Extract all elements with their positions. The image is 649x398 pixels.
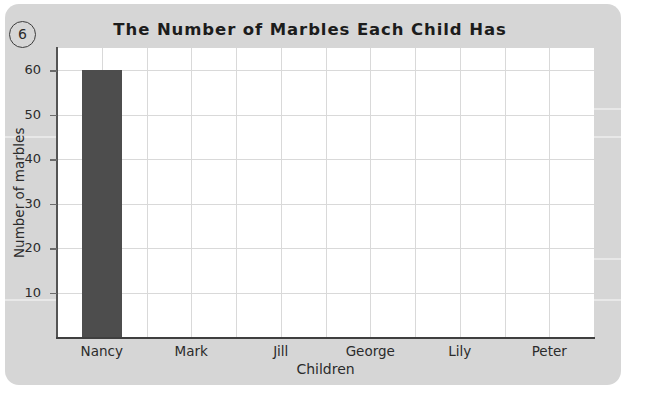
y-tick-mark xyxy=(50,159,57,161)
y-tick-label: 50 xyxy=(7,107,41,122)
y-tick-label: 40 xyxy=(7,151,41,166)
gridline-vertical xyxy=(281,48,282,337)
y-tick-label: 30 xyxy=(7,196,41,211)
gridline-vertical xyxy=(370,48,371,337)
gridline-vertical xyxy=(415,48,416,337)
y-tick-mark xyxy=(50,204,57,206)
y-tick-mark xyxy=(50,70,57,72)
bar-chart: Number of marbles Children 102030405060N… xyxy=(0,0,649,398)
x-tick-label: Peter xyxy=(489,343,609,359)
x-axis-line xyxy=(56,337,595,339)
y-tick-label: 10 xyxy=(7,285,41,300)
gridline-vertical xyxy=(549,48,550,337)
worksheet-page: 6 The Number of Marbles Each Child Has N… xyxy=(0,0,649,398)
y-tick-label: 20 xyxy=(7,240,41,255)
gridline-vertical xyxy=(236,48,237,337)
y-tick-mark xyxy=(50,293,57,295)
y-tick-mark xyxy=(50,115,57,117)
y-tick-mark xyxy=(50,248,57,250)
gridline-vertical xyxy=(326,48,327,337)
gridline-vertical xyxy=(191,48,192,337)
y-tick-label: 60 xyxy=(7,62,41,77)
bar-nancy xyxy=(82,70,122,337)
y-axis-line xyxy=(56,47,58,339)
plot-area xyxy=(57,48,594,337)
gridline-vertical xyxy=(505,48,506,337)
gridline-vertical xyxy=(460,48,461,337)
y-axis-title: Number of marbles xyxy=(11,128,27,258)
x-axis-title: Children xyxy=(57,361,594,377)
gridline-vertical xyxy=(147,48,148,337)
